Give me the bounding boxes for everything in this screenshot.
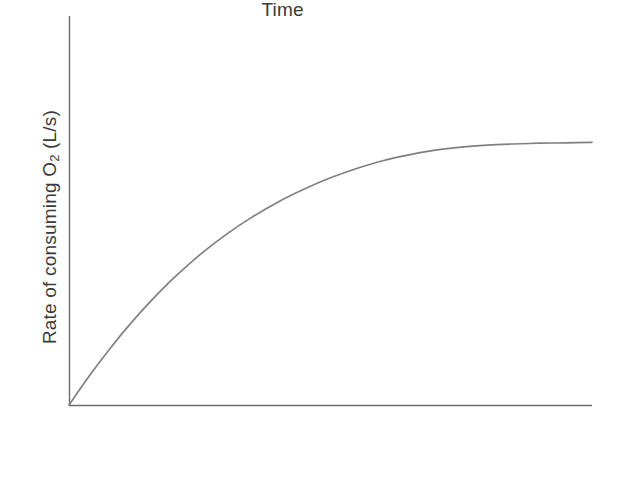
y-axis-label: Rate of consuming O2 (L/s) bbox=[40, 110, 59, 344]
y-axis-label-container: Rate of consuming O2 (L/s) bbox=[40, 0, 66, 467]
line-chart-canvas bbox=[0, 0, 621, 480]
axes-group bbox=[69, 16, 592, 406]
y-axis-label-prefix: Rate of consuming O bbox=[39, 162, 60, 344]
x-axis-label: Time bbox=[262, 0, 304, 19]
y-axis-label-subscript: 2 bbox=[47, 154, 62, 161]
chart-figure: Time Rate of consuming O2 (L/s) bbox=[0, 0, 621, 480]
saturation-curve-line bbox=[69, 142, 592, 405]
y-axis-label-suffix: (L/s) bbox=[39, 110, 60, 154]
data-series-group bbox=[69, 142, 592, 405]
